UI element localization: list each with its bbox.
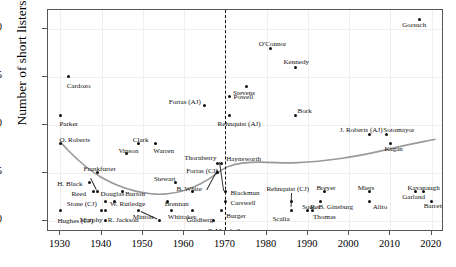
x-tick-label: 2020: [411, 238, 451, 249]
x-tick-mark: [59, 231, 60, 235]
x-tick-mark: [142, 231, 143, 235]
data-point-label: Cardozo: [67, 82, 91, 90]
data-point-label: Frankfurter: [84, 165, 116, 173]
x-tick-label: 1940: [81, 238, 121, 249]
x-tick-mark: [307, 231, 308, 235]
data-point-label: Garland: [402, 193, 425, 201]
x-tick-mark: [389, 231, 390, 235]
data-point-label: Douglas: [101, 190, 125, 198]
x-tick-mark: [183, 231, 184, 235]
data-point-label: O'Connor: [259, 40, 287, 48]
x-tick-mark: [101, 231, 102, 235]
data-point: [158, 219, 161, 222]
x-tick-label: 1950: [122, 238, 162, 249]
data-point-label: Minton: [133, 213, 154, 221]
data-point-label: Reed: [71, 190, 86, 198]
x-tick-mark: [224, 231, 225, 235]
data-point-label: Vinson: [118, 147, 138, 155]
x-tick-label: 2010: [369, 238, 409, 249]
x-tick-label: 2000: [328, 238, 368, 249]
x-tick-mark: [348, 231, 349, 235]
data-point-label: H. Black: [57, 180, 82, 188]
data-point-label: Alito: [373, 203, 388, 211]
data-point-label: Kavanaugh: [407, 184, 439, 192]
data-point-label: Rehnquist (AJ): [218, 120, 261, 128]
data-point-label: W. Rutledge: [110, 200, 145, 208]
x-tick-label: 1980: [246, 238, 286, 249]
y-axis-label: Number of short listers: [14, 0, 30, 148]
x-tick-label: 1930: [39, 238, 79, 249]
data-point: [290, 200, 293, 203]
data-point: [220, 162, 223, 165]
data-point-label: Fortas (CJ): [186, 167, 218, 175]
y-tick-label: 0: [0, 214, 2, 224]
data-point: [59, 114, 62, 117]
data-point-label: Goldberg: [186, 216, 213, 224]
data-point-label: Sotomayor: [383, 126, 414, 134]
x-tick-label: 1990: [287, 238, 327, 249]
x-tick-mark: [431, 231, 432, 235]
data-point-label: Brennan: [165, 200, 189, 208]
x-tick-label: 1970: [204, 238, 244, 249]
y-tick-label: 15: [0, 70, 2, 80]
data-point-label: Thornberry: [184, 154, 216, 162]
data-point: [88, 181, 91, 184]
data-point-label: Kennedy: [284, 58, 310, 66]
data-point-label: Breyer: [316, 184, 335, 192]
data-point-label: Stone (CJ): [67, 200, 97, 208]
data-point-label: Stewart: [154, 175, 176, 183]
data-point: [228, 114, 231, 117]
trend-line-path: [60, 139, 435, 194]
data-point-label: R. B. Ginsburg: [310, 203, 353, 211]
data-point-label: J. Roberts (AJ): [340, 126, 383, 134]
data-point-label: Stevens: [233, 89, 255, 97]
data-point-label: Scalia: [272, 215, 289, 223]
data-point-label: B. White: [176, 185, 201, 193]
data-point-label: Warren: [153, 147, 174, 155]
data-point-label: Burton: [125, 190, 145, 198]
x-tick-label: 1960: [163, 238, 203, 249]
data-point-label: Parker: [59, 120, 78, 128]
data-point-label: Miers: [358, 184, 375, 192]
reference-line-1970: [225, 10, 226, 230]
x-tick-mark: [266, 231, 267, 235]
data-point-label: Bork: [298, 107, 312, 115]
data-point-label: Gorsuch: [402, 21, 426, 29]
data-point-label: Haynsworth: [226, 155, 261, 163]
data-point-label: Carswell: [230, 199, 255, 207]
data-point-label: Barrett: [424, 202, 443, 210]
data-point: [228, 95, 231, 98]
data-point-label: Blackmun: [230, 189, 259, 197]
data-point-label: Fortas (AJ): [169, 98, 201, 106]
data-point-label: Clark: [133, 136, 149, 144]
y-tick-label: 10: [0, 118, 2, 128]
y-tick-label: 5: [0, 166, 2, 176]
chart-figure: Number of short listers 05101520 1930194…: [0, 0, 456, 267]
y-tick-label: 20: [0, 22, 2, 32]
data-point-label: Rehnquist (CJ): [266, 185, 309, 193]
data-point-label: O. Roberts: [59, 136, 90, 144]
data-point-label: Burger: [226, 212, 246, 220]
plot-area: ParkerCardozoO. RobertsH. BlackFrankfurt…: [47, 9, 443, 231]
data-point-label: T. Marshall: [208, 227, 241, 231]
data-point-label: Kagan: [384, 145, 403, 153]
data-point-label: Murphy: [80, 216, 103, 224]
data-point-label: Thomas: [313, 213, 336, 221]
